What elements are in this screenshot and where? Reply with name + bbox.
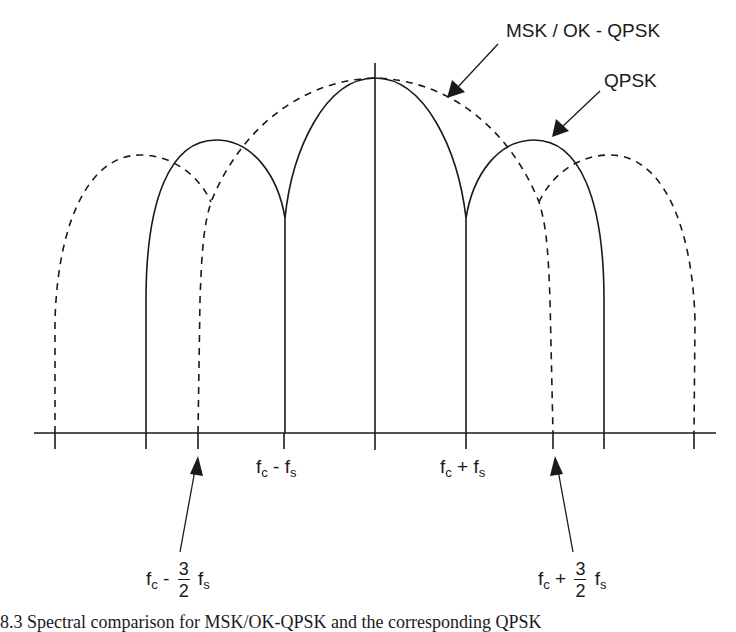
- fc-plus-three-halves-fs-label: fc + 32 fs: [538, 560, 607, 600]
- msk-oqpsk-label: MSK / OK - QPSK: [506, 20, 660, 42]
- fc-minus-fs-label: fc - fs: [256, 456, 296, 478]
- left-arrowhead-icon: [190, 456, 203, 476]
- three-halves-fraction: 32: [574, 560, 586, 600]
- qpsk-arrowhead-icon: [552, 119, 569, 137]
- arrowheads: [190, 80, 569, 476]
- fc-plus-fs-label: fc + fs: [440, 456, 485, 478]
- fc-minus-three-halves-fs-label: fc - 32 fs: [146, 560, 210, 600]
- three-halves-fraction: 32: [178, 560, 190, 600]
- pointer-arrows: [180, 44, 600, 552]
- spectrum-diagram: [0, 0, 736, 632]
- qpsk-label: QPSK: [604, 70, 657, 92]
- right-arrowhead-icon: [550, 456, 563, 476]
- figure-caption: 8.3 Spectral comparison for MSK/OK-QPSK …: [0, 612, 736, 632]
